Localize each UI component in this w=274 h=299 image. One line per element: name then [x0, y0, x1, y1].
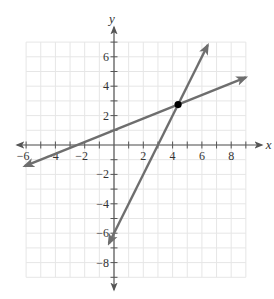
- x-tick-label: 8: [228, 149, 234, 163]
- grid-lines: [26, 42, 246, 277]
- x-tick-label: −2: [75, 149, 88, 163]
- intersection-point: [174, 101, 181, 108]
- x-tick-label: 2: [140, 149, 146, 163]
- line-1: [25, 77, 246, 166]
- x-axis-label: x: [265, 137, 272, 152]
- y-tick-label: −8: [96, 256, 109, 270]
- y-tick-label: 2: [103, 109, 109, 123]
- y-tick-label: −6: [96, 226, 109, 240]
- x-tick-label: −6: [17, 149, 30, 163]
- y-tick-label: −2: [96, 167, 109, 181]
- y-axis-label: y: [107, 11, 115, 26]
- y-tick-label: −4: [96, 197, 109, 211]
- coordinate-plane: −6−4−22468642−2−4−6−8xy: [0, 0, 274, 299]
- plotted-lines: [25, 45, 246, 243]
- y-tick-label: 6: [103, 50, 109, 64]
- x-tick-label: 6: [199, 149, 205, 163]
- plotted-points: [174, 101, 181, 108]
- x-tick-label: 4: [170, 149, 176, 163]
- y-tick-label: 4: [103, 79, 109, 93]
